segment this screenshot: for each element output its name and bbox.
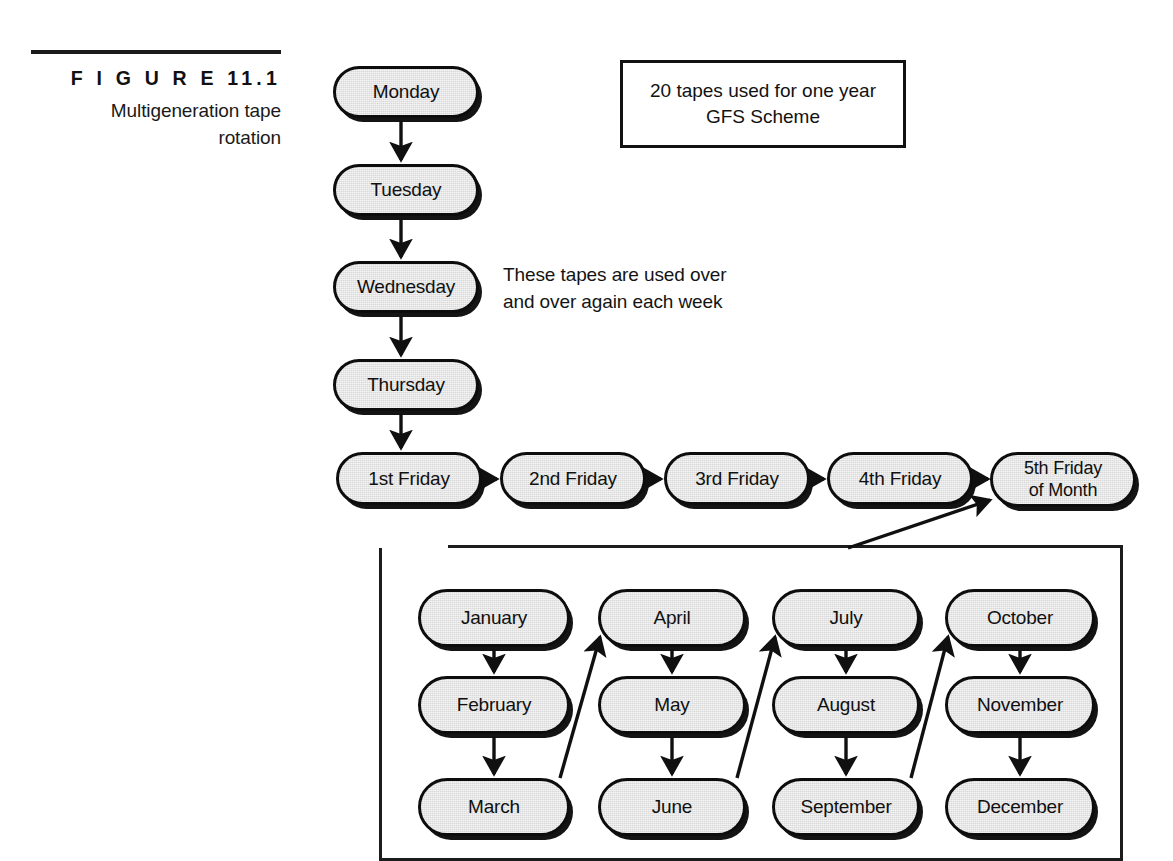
node-august: August xyxy=(772,676,920,734)
figure-caption-block: F I G U R E 11.1 Multigeneration tape ro… xyxy=(31,50,281,152)
gfs-note-line-1: 20 tapes used for one year xyxy=(650,80,876,101)
node-5th-friday-line-1: 5th Friday xyxy=(1024,458,1102,478)
node-3rd-friday: 3rd Friday xyxy=(664,452,810,505)
gfs-note-line-2: GFS Scheme xyxy=(706,106,820,127)
figure-title-line-1: Multigeneration tape xyxy=(111,100,281,121)
node-september-label: September xyxy=(794,796,897,817)
arrow-months-frame-to-5th-friday xyxy=(848,500,990,548)
node-march: March xyxy=(418,778,570,836)
node-march-label: March xyxy=(462,796,526,817)
node-5th-friday-of-month: 5th Friday of Month xyxy=(990,452,1136,507)
node-october: October xyxy=(945,589,1095,647)
node-february-label: February xyxy=(451,694,537,715)
node-monday-label: Monday xyxy=(367,81,445,102)
node-wednesday-label: Wednesday xyxy=(351,276,461,297)
node-2nd-friday: 2nd Friday xyxy=(500,452,646,505)
node-tuesday: Tuesday xyxy=(333,164,479,216)
node-october-label: October xyxy=(981,607,1059,628)
node-3rd-friday-label: 3rd Friday xyxy=(689,468,785,489)
figure-title-line-2: rotation xyxy=(218,127,281,148)
node-4th-friday: 4th Friday xyxy=(827,452,973,505)
node-tuesday-label: Tuesday xyxy=(365,179,448,200)
node-1st-friday: 1st Friday xyxy=(336,452,482,505)
weekly-reuse-note: These tapes are used over and over again… xyxy=(503,262,803,316)
node-thursday-label: Thursday xyxy=(361,374,451,395)
node-5th-friday-label: 5th Friday of Month xyxy=(1018,458,1108,500)
node-february: February xyxy=(418,676,570,734)
node-1st-friday-label: 1st Friday xyxy=(362,468,455,489)
gfs-scheme-note-text: 20 tapes used for one year GFS Scheme xyxy=(650,78,876,130)
node-may: May xyxy=(598,676,746,734)
weekly-note-line-1: These tapes are used over xyxy=(503,264,727,285)
node-july-label: July xyxy=(824,607,869,628)
node-december: December xyxy=(945,778,1095,836)
node-january: January xyxy=(418,589,570,647)
figure-page: F I G U R E 11.1 Multigeneration tape ro… xyxy=(0,0,1173,861)
node-september: September xyxy=(772,778,920,836)
node-thursday: Thursday xyxy=(333,359,479,411)
node-april-label: April xyxy=(647,607,696,628)
gfs-scheme-note-box: 20 tapes used for one year GFS Scheme xyxy=(620,60,906,148)
node-june-label: June xyxy=(646,796,698,817)
node-july: July xyxy=(772,589,920,647)
weekly-note-line-2: and over again each week xyxy=(503,291,722,312)
node-2nd-friday-label: 2nd Friday xyxy=(523,468,623,489)
figure-number: F I G U R E 11.1 xyxy=(31,67,281,90)
node-november: November xyxy=(945,676,1095,734)
node-august-label: August xyxy=(811,694,881,715)
node-january-label: January xyxy=(455,607,533,628)
caption-divider-rule xyxy=(31,50,281,54)
node-monday: Monday xyxy=(333,66,479,118)
figure-title: Multigeneration tape rotation xyxy=(31,98,281,152)
node-may-label: May xyxy=(648,694,695,715)
node-wednesday: Wednesday xyxy=(333,261,479,313)
node-4th-friday-label: 4th Friday xyxy=(853,468,947,489)
node-november-label: November xyxy=(971,694,1069,715)
node-december-label: December xyxy=(971,796,1069,817)
node-april: April xyxy=(598,589,746,647)
node-5th-friday-line-2: of Month xyxy=(1029,480,1097,500)
node-june: June xyxy=(598,778,746,836)
